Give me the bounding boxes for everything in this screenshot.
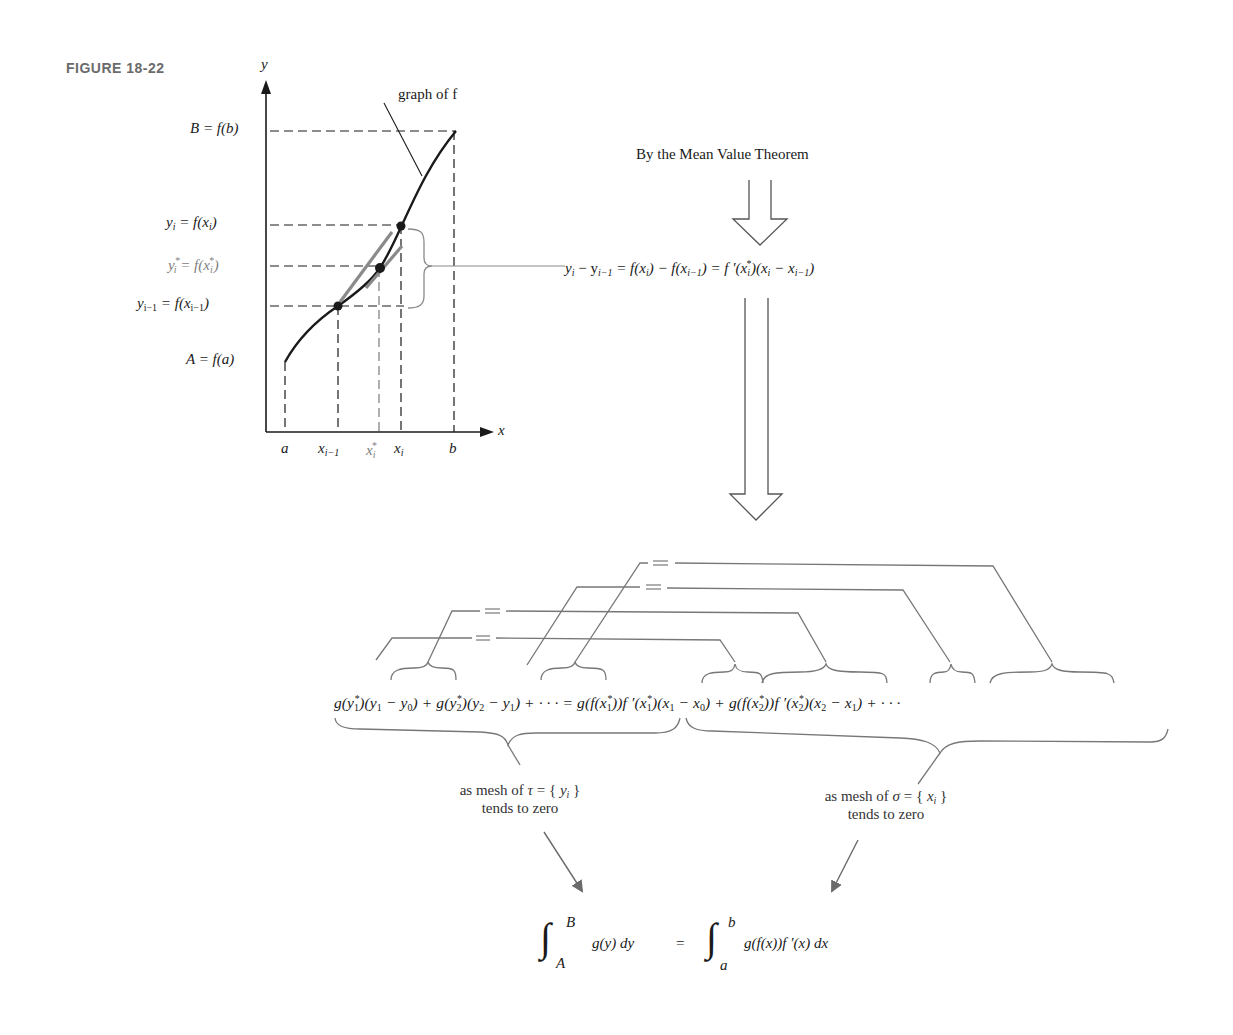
x-axis-arrow-icon [480, 427, 494, 437]
point-xim1 [334, 302, 343, 311]
integral-left-upper: B [566, 914, 575, 931]
point-xi [397, 222, 406, 231]
integral-right-integrand: g(f(x))f ′(x) dx [744, 935, 828, 952]
left-limit-arrow-icon [544, 832, 582, 891]
y-axis-arrow-icon [261, 80, 271, 94]
sum-equation: g(y1*)(y1 − y0) + g(y2*)(y2 − y1) + · · … [334, 693, 901, 713]
mvt-equation: yi − yi−1 = f(xi) − f(xi−1) = f ′(xi*)(x… [565, 258, 814, 278]
dashed-guides [270, 131, 456, 432]
x-label-xstar: xi* [366, 440, 376, 460]
right-limit-arrow-icon [832, 840, 858, 891]
right-mesh-note: as mesh of σ = { xi } tends to zero [796, 788, 976, 823]
curve-label: graph of f [398, 86, 457, 103]
mvt-caption: By the Mean Value Theorem [636, 146, 809, 163]
figure-line-art [0, 0, 1233, 1035]
term-braces [391, 662, 1114, 683]
left-note-leader [508, 745, 520, 765]
left-mesh-note: as mesh of τ = { yi } tends to zero [440, 782, 600, 817]
left-mesh-note-line2: tends to zero [440, 800, 600, 817]
connector-equal-signs [476, 561, 668, 640]
y-label-yi: yi = f(xi) [166, 214, 217, 232]
y-label-A: A = f(a) [186, 351, 234, 368]
right-mesh-note-line2: tends to zero [796, 806, 976, 823]
integral-equals: = [676, 935, 684, 952]
integral-right-upper: b [728, 914, 736, 931]
right-note-leader [918, 753, 940, 784]
y-axis-label: y [261, 56, 268, 73]
y-label-ystar: y*i = f(xi*) [168, 255, 219, 275]
point-xstar [375, 263, 385, 273]
x-label-a: a [281, 440, 289, 457]
integral-left-integrand: g(y) dy [592, 935, 634, 952]
integral-sign-left: ∫ [540, 918, 551, 958]
y-label-B: B = f(b) [190, 120, 238, 137]
graph-brace [408, 229, 432, 308]
axes [261, 80, 494, 437]
left-mesh-note-line1: as mesh of τ = { yi } [440, 782, 600, 800]
integral-right-lower: a [720, 957, 728, 974]
sum-underbraces [335, 718, 1168, 753]
term-connectors [376, 563, 1052, 665]
x-label-b: b [449, 440, 457, 457]
down-arrow-small-icon [733, 180, 787, 245]
curve-label-text: graph of f [398, 86, 457, 102]
y-label-yim1: yi−1 = f(xi−1) [137, 295, 209, 313]
integral-sign-right: ∫ [706, 918, 717, 958]
function-curve [285, 131, 456, 362]
x-axis-label: x [498, 422, 505, 439]
x-label-xi: xi [394, 440, 403, 458]
down-arrow-large-icon [730, 298, 782, 520]
curve-label-leader [384, 103, 422, 176]
right-mesh-note-line1: as mesh of σ = { xi } [796, 788, 976, 806]
integral-left-lower: A [556, 955, 565, 972]
x-label-xim1: xi−1 [318, 440, 339, 458]
